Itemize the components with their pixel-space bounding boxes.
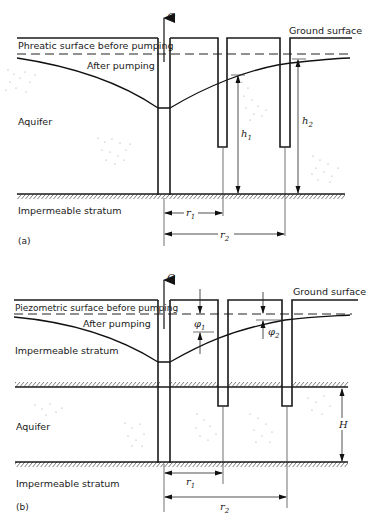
phreatic-surface-label: Phreatic surface before pumping <box>18 40 173 51</box>
after-pumping-label: After pumping <box>83 318 151 329</box>
piezometric-surface-label: Piezometric surface before pumping <box>15 303 178 313</box>
upper-impermeable-stratum-label: Impermeable stratum <box>15 345 119 356</box>
panel-label-b: (b) <box>16 502 29 512</box>
flow-q-label: Q <box>167 11 175 22</box>
aquifer-label: Aquifer <box>18 116 52 127</box>
well-drawdown-diagram: Phreatic surface before pumping After pu… <box>0 0 369 518</box>
r2-label: r2 <box>220 501 230 515</box>
phi2-label: φ2 <box>268 326 280 340</box>
thickness-h-label: H <box>338 419 348 430</box>
sand-texture <box>34 395 330 446</box>
figure-a: Phreatic surface before pumping After pu… <box>5 11 362 246</box>
ground-surface-label: Ground surface <box>289 25 362 36</box>
sand-texture <box>5 69 338 182</box>
impermeable-stratum-label: Impermeable stratum <box>16 478 120 489</box>
h1-label: h1 <box>241 128 252 142</box>
h2-label: h2 <box>302 115 313 129</box>
phi1-label: φ1 <box>194 318 205 332</box>
ground-surface-label: Ground surface <box>293 286 366 297</box>
impermeable-stratum-label: Impermeable stratum <box>18 205 122 216</box>
aquifer-label: Aquifer <box>16 421 50 432</box>
panel-label-a: (a) <box>18 236 31 246</box>
after-pumping-label: After pumping <box>87 60 155 71</box>
figure-b: Piezometric surface before pumping After… <box>14 272 366 515</box>
r1-label: r1 <box>186 476 195 490</box>
flow-q-label: Q <box>167 272 175 283</box>
drawdown-curve <box>17 58 350 108</box>
